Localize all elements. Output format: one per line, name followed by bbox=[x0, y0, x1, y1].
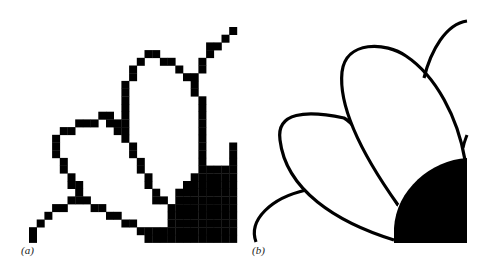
panel-a-caption: (a) bbox=[21, 244, 34, 256]
panel-b-caption: (b) bbox=[252, 244, 265, 256]
top-right-stem-curve bbox=[424, 21, 467, 78]
vector-flower-image bbox=[246, 0, 492, 273]
raster-flower-image bbox=[0, 0, 246, 273]
right-petal-edge bbox=[463, 135, 467, 148]
panel-b-vector-figure: (b) bbox=[246, 0, 492, 273]
panel-a-raster-figure: (a) bbox=[0, 0, 246, 273]
left-stem-curve bbox=[254, 190, 306, 242]
